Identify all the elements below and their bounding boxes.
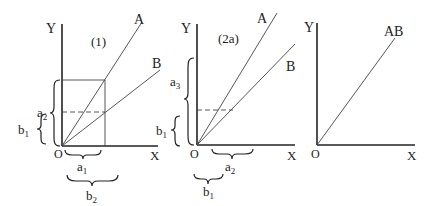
diagram-canvas: Y (1) A B O X a2 b1 a1 b2 Y (2a) A B O X	[0, 0, 437, 206]
panel-2-y-label: Y	[181, 21, 191, 36]
panel-1-line-b	[62, 70, 160, 146]
panel-2: Y (2a) A B O X a3 b1 a2 b1	[156, 11, 297, 201]
panel-2-line-b-label: B	[286, 59, 295, 74]
panel-1-x-label: X	[150, 148, 160, 163]
panel-1-title: (1)	[91, 34, 106, 49]
panel-1: Y (1) A B O X a2 b1 a1 b2	[18, 12, 161, 205]
panel-2-brace-b1	[171, 116, 180, 146]
panel-1-brace-b2-label: b2	[86, 188, 97, 205]
panel-2-brace-b1-bottom	[194, 174, 223, 184]
panel-3-line-ab	[317, 38, 395, 145]
panel-3-y-label: Y	[304, 20, 314, 35]
panel-1-y-label: Y	[46, 21, 56, 36]
panel-1-brace-a1	[65, 150, 101, 159]
panel-2-brace-a2-label: a2	[225, 159, 235, 176]
panel-2-origin-label: O	[190, 147, 199, 161]
panel-2-brace-b1-label: b1	[156, 123, 167, 140]
panel-2-brace-a3	[184, 58, 194, 145]
panel-2-brace-a3-label: a3	[170, 74, 181, 91]
panel-1-brace-a2	[50, 80, 60, 146]
panel-1-brace-a1-label: a1	[77, 159, 87, 176]
panel-2-line-a-label: A	[257, 11, 268, 26]
panel-2-brace-a2	[212, 149, 253, 159]
panel-3: Y AB O X	[304, 20, 417, 163]
panel-2-line-b	[197, 44, 295, 145]
panel-2-title: (2a)	[218, 31, 239, 46]
panel-3-origin-label: O	[311, 147, 320, 161]
panel-1-origin-label: O	[54, 147, 63, 161]
panel-1-line-b-label: B	[152, 56, 161, 71]
panel-1-brace-b1-label: b1	[18, 122, 29, 139]
panel-2-x-label: X	[287, 148, 297, 163]
panel-3-line-ab-label: AB	[384, 24, 403, 39]
panel-3-x-label: X	[407, 148, 417, 163]
panel-2-brace-b1-bottom-label: b1	[203, 184, 214, 201]
panel-1-brace-b2	[67, 175, 118, 186]
panel-1-line-a-label: A	[134, 12, 145, 27]
